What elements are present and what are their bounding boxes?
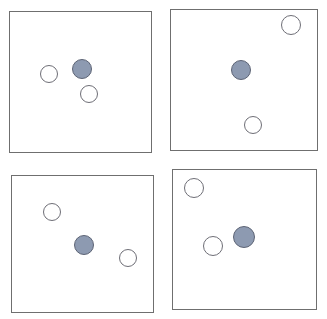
- filled-circle: [231, 60, 251, 80]
- filled-circle: [233, 226, 255, 248]
- open-circle: [80, 85, 98, 103]
- stimulus-panel-top-left: [9, 11, 152, 153]
- open-circle: [281, 15, 301, 35]
- open-circle: [203, 236, 223, 256]
- open-circle: [119, 249, 137, 267]
- filled-circle: [72, 59, 92, 79]
- open-circle: [244, 116, 262, 134]
- filled-circle: [74, 235, 94, 255]
- open-circle: [40, 65, 58, 83]
- four-panel-circle-figure: [0, 0, 327, 319]
- open-circle: [184, 178, 204, 198]
- open-circle: [43, 203, 61, 221]
